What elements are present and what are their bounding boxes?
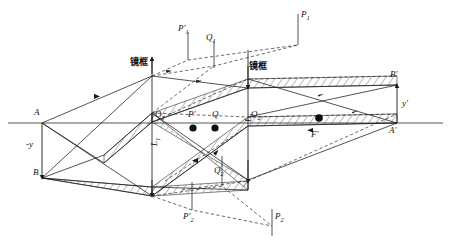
ray-B-to-cross [42,155,104,178]
label-image-top: B' [390,70,397,79]
label-p1-prime: P'1 [178,24,189,35]
optical-ray-diagram: A B -y B' A' y' O1 O2 L1 L2 P' Q F' 镜框 镜… [0,0,449,244]
label-q2-sub: 2 [221,170,224,177]
hatch-band-cross-upper [104,113,152,163]
label-mirror-frame-2: 镜框 [249,62,267,71]
label-q1: Q1 [206,33,216,44]
label-lens-1: L1 [150,138,161,146]
hatch-band-lower-right [152,114,397,196]
ray-cross-up [152,88,248,122]
label-lens-2: L2 [244,114,255,122]
dashed-to-P2 [152,196,272,226]
dashed-to-P1-via-Q1 [152,45,298,76]
label-image-bottom: A' [389,126,396,135]
ray-mid-to-Bprime [248,85,397,117]
ray-left-cross-upper [104,113,152,155]
label-p1-prime-sub: 1 [185,28,188,35]
arrowhead-near-lens1-top [166,70,172,73]
label-object-height: -y [26,140,33,149]
ray-left-cross-lower [104,122,152,163]
label-lens-2-sub: 2 [248,114,255,117]
label-object-top: A [34,108,40,117]
dashed-to-P1 [152,45,298,76]
label-q2: Q2 [214,166,224,177]
label-p2-sub: 2 [281,216,284,223]
label-point-p-prime: P' [188,110,195,119]
label-p2-prime: P'2 [183,212,194,223]
label-lens-1-base: L [149,141,159,146]
dot-P-prime [189,124,196,131]
label-lens-2-base: L [243,117,253,122]
label-origin-1: O1 [155,110,165,121]
label-p2-prime-sub: 2 [190,216,193,223]
dashed-construction-rays [152,45,397,226]
label-lens-1-sub: 1 [154,138,161,141]
label-p1: P1 [301,10,310,21]
label-p1-sub: 1 [307,14,310,21]
diagram-canvas [0,0,449,244]
label-focal-prime: F' [311,130,318,139]
ray-lower-to-Aprime [248,123,397,180]
label-origin-2-sub: 2 [258,114,261,121]
label-p2: P2 [275,212,284,223]
arrowhead-lens1-lens2-top [196,80,202,83]
dot-F-prime [315,114,323,122]
label-image-height: y' [402,99,408,108]
label-point-q: Q [212,110,219,119]
dot-Q [211,124,218,131]
label-q1-sub: 1 [213,37,216,44]
label-mirror-frame-1: 镜框 [130,58,148,67]
ray-A-to-lens1-top [42,76,152,123]
label-origin-1-sub: 1 [162,114,165,121]
hatched-beam-regions [42,76,397,196]
ray-lens1top-to-lens2 [152,76,248,88]
arrowhead-lens2-image-top [318,94,324,97]
label-object-bottom: B [33,168,39,177]
